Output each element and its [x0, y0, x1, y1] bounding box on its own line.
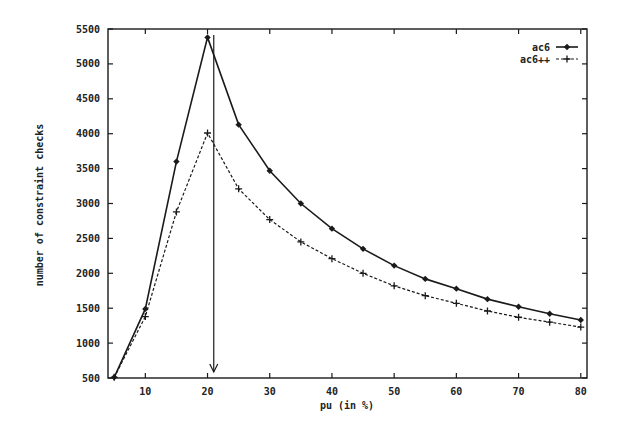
diamond-marker: [204, 34, 210, 40]
series-ac6plusplus: [111, 130, 585, 381]
y-tick-label: 5000: [76, 58, 100, 69]
diamond-marker: [391, 262, 397, 268]
y-tick-label: 2000: [76, 268, 100, 279]
y-tick-label: 3500: [76, 163, 100, 174]
legend: ac6ac6++: [520, 42, 578, 65]
y-tick-label: 1500: [76, 303, 100, 314]
y-tick-label: 4500: [76, 93, 100, 104]
legend-label: ac6: [532, 42, 550, 53]
x-tick-label: 30: [264, 386, 276, 397]
x-tick-label: 40: [326, 386, 338, 397]
y-tick-label: 3000: [76, 198, 100, 209]
diamond-marker: [422, 276, 428, 282]
diamond-marker: [515, 304, 521, 310]
plus-marker: [453, 300, 460, 307]
x-tick-label: 70: [513, 386, 525, 397]
plus-marker: [391, 282, 398, 289]
plus-marker: [422, 292, 429, 299]
plus-marker: [484, 307, 491, 314]
y-tick-label: 4000: [76, 128, 100, 139]
plus-marker: [173, 208, 180, 215]
legend-label: ac6++: [520, 54, 550, 65]
plus-marker: [564, 56, 571, 63]
plus-marker: [515, 314, 522, 321]
series-line: [114, 133, 581, 377]
y-axis-label: number of constraint checks: [34, 124, 45, 287]
y-tick-label: 1000: [76, 338, 100, 349]
series-line: [114, 37, 581, 377]
y-tick-label: 5500: [76, 24, 100, 35]
plus-marker: [577, 324, 584, 331]
plus-marker: [111, 374, 118, 381]
line-chart: 5001000150020002500300035004000450050005…: [0, 0, 617, 424]
plus-marker: [546, 319, 553, 326]
x-axis-label: pu (in %): [320, 400, 374, 411]
y-tick-label: 2500: [76, 233, 100, 244]
x-tick-label: 50: [388, 386, 400, 397]
x-axis-ticks: 1020304050607080: [139, 29, 587, 397]
plus-marker: [297, 238, 304, 245]
x-tick-label: 10: [139, 386, 151, 397]
x-tick-label: 60: [450, 386, 462, 397]
y-tick-label: 500: [82, 373, 100, 384]
plus-marker: [328, 255, 335, 262]
diamond-marker: [546, 311, 552, 317]
series-layer: [111, 34, 585, 381]
diamond-marker: [564, 44, 570, 50]
x-tick-label: 20: [202, 386, 214, 397]
x-tick-label: 80: [575, 386, 587, 397]
diamond-marker: [578, 317, 584, 323]
diamond-marker: [484, 296, 490, 302]
y-axis-ticks: 5001000150020002500300035004000450050005…: [76, 24, 587, 384]
plus-marker: [235, 185, 242, 192]
arrow-annotation: [210, 35, 218, 372]
plus-marker: [204, 130, 211, 137]
plus-marker: [360, 270, 367, 277]
diamond-marker: [453, 285, 459, 291]
series-ac6: [111, 34, 584, 380]
diamond-marker: [173, 158, 179, 164]
